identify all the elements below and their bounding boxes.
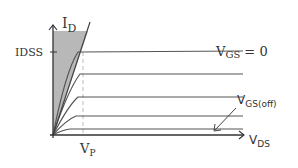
x-axis-label: VDS — [249, 133, 270, 149]
jfet-characteristics-diagram: ID IDSS VGS = 0 VGS(off) VP VDS — [0, 0, 298, 168]
vgsoff-arrow — [215, 108, 236, 130]
vp-label: VP — [79, 141, 95, 158]
vgs0-label: VGS = 0 — [215, 44, 268, 60]
vgsoff-label: VGS(off) — [237, 93, 277, 109]
curve-vgs0 — [53, 51, 243, 135]
idss-label: IDSS — [15, 46, 43, 59]
